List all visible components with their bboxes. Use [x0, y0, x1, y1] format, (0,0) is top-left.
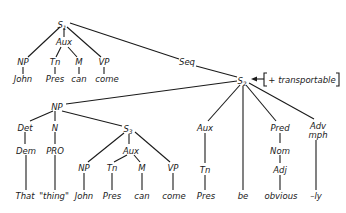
leaf-thing: "thing"	[39, 191, 69, 201]
node-s1-tn: Tn	[50, 57, 61, 67]
leaf-s3-can: can	[134, 191, 149, 201]
feature-transportable: + transportable	[268, 75, 335, 85]
node-np: NP	[51, 102, 63, 112]
node-pred: Pred	[270, 123, 290, 133]
node-s3-aux: Aux	[122, 146, 140, 156]
leaf-s1-can: can	[71, 74, 86, 84]
node-dem: Dem	[16, 146, 36, 156]
leaf-be: be	[238, 191, 249, 201]
node-s3-tn: Tn	[107, 163, 118, 173]
node-s1: S1	[57, 20, 66, 31]
leaf-that: That	[15, 191, 35, 201]
tree-svg: S1 NP Aux Tn M VP John Pres can come Seq…	[0, 0, 346, 213]
node-s3-vp: VP	[168, 163, 180, 173]
node-s2-aux: Aux	[196, 123, 214, 133]
node-pro: PRO	[46, 146, 64, 156]
leaf-s2-pres: Pres	[197, 191, 216, 201]
node-n: N	[52, 123, 59, 133]
node-s1-m: M	[75, 57, 83, 67]
node-s3: S3	[123, 124, 132, 135]
node-s3-np: NP	[78, 163, 90, 173]
node-s2-tn: Tn	[200, 165, 211, 175]
node-s3-m: M	[138, 163, 146, 173]
leaf-ly: –ly	[310, 191, 323, 201]
syntax-tree-diagram: S1 NP Aux Tn M VP John Pres can come Seq…	[0, 0, 346, 213]
leaf-s1-john: John	[12, 74, 32, 84]
node-s1-np: NP	[17, 57, 29, 67]
leaf-s1-come: come	[95, 74, 118, 84]
tree-edges	[23, 23, 339, 190]
node-nom: Nom	[270, 146, 290, 156]
node-s2: S2	[237, 76, 246, 87]
node-seq: Seq	[179, 57, 196, 67]
leaf-obvious: obvious	[264, 191, 298, 201]
leaf-s3-come: come	[162, 191, 185, 201]
node-s1-aux: Aux	[55, 37, 73, 47]
leaf-s1-pres: Pres	[46, 74, 65, 84]
node-mph: mph	[308, 130, 327, 140]
leaf-s3-pres: Pres	[103, 191, 122, 201]
node-s1-vp: VP	[99, 57, 111, 67]
node-det: Det	[17, 123, 33, 133]
node-adj: Adj	[272, 165, 287, 175]
leaf-s3-john: John	[73, 191, 93, 201]
